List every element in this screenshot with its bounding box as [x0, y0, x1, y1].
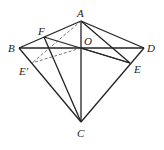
label-D: D — [146, 42, 155, 54]
label-B: B — [8, 42, 15, 54]
label-A: A — [76, 7, 84, 19]
segment-AB — [19, 21, 81, 48]
label-E-prime: E' — [18, 65, 29, 77]
segment-OE-prime — [32, 48, 81, 63]
segment-OE — [81, 48, 130, 63]
segment-DC — [81, 48, 144, 122]
label-C: C — [77, 127, 85, 139]
label-F: F — [37, 25, 45, 37]
label-O: O — [84, 35, 92, 47]
geometry-figure: A B D O C F E E' — [0, 0, 164, 150]
segment-BC — [19, 48, 81, 122]
label-E: E — [133, 63, 141, 75]
